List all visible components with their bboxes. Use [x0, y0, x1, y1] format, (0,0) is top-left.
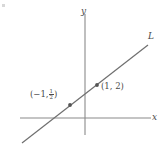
- point-a-label: (−1,12): [30, 88, 57, 101]
- point-a-dot: [68, 103, 72, 107]
- point-a-paren-close: ): [54, 89, 57, 99]
- point-a-x-value: −1,: [33, 89, 48, 99]
- point-b-label: (1, 2): [101, 82, 124, 91]
- point-a-fraction: 12: [49, 89, 54, 102]
- coordinate-plane-figure: x y L (−1,12) (1, 2): [0, 0, 164, 147]
- x-axis-label: x: [152, 113, 157, 122]
- fraction-denominator: 2: [49, 94, 54, 101]
- point-b-dot: [95, 83, 99, 87]
- figure-canvas: [0, 0, 164, 147]
- line-l-label: L: [148, 32, 154, 41]
- y-axis-label: y: [81, 7, 86, 16]
